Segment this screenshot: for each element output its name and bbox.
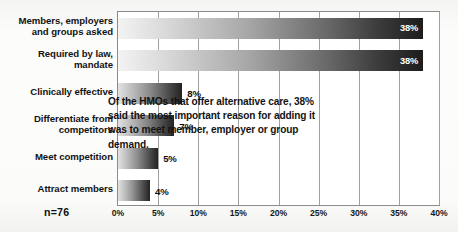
bar-value-label: 38% xyxy=(400,23,418,33)
bar-chart: Members, employersand groups askedRequir… xyxy=(0,0,458,232)
category-label-line: Meet competition xyxy=(0,152,113,163)
bar-value-label: 38% xyxy=(400,56,418,66)
value-axis-tick-label: 25% xyxy=(310,208,327,218)
chart-title xyxy=(10,0,450,3)
category-label-line: Attract members xyxy=(0,184,113,195)
category-label: Clinically effective xyxy=(0,87,113,98)
value-axis-tick-label: 5% xyxy=(152,208,164,218)
value-axis-tick-label: 15% xyxy=(230,208,247,218)
category-axis-labels: Members, employersand groups askedRequir… xyxy=(0,11,113,206)
bar-value-label: 4% xyxy=(155,185,169,196)
bar-row: 4% xyxy=(118,180,439,201)
gridline xyxy=(439,12,440,205)
value-axis-labels: 0%5%10%15%20%25%30%35%40% xyxy=(117,208,440,222)
category-label-line: competitors xyxy=(0,125,113,136)
bar xyxy=(118,50,423,71)
chart-annotation: Of the HMOs that offer alternative care,… xyxy=(108,95,320,152)
category-label: Differentiate fromcompetitors xyxy=(0,114,113,136)
value-axis-tick-label: 35% xyxy=(390,208,407,218)
gridline xyxy=(399,12,400,205)
value-axis-tick-label: 0% xyxy=(112,208,124,218)
sample-size-label: n=76 xyxy=(44,206,69,218)
bar xyxy=(118,180,150,201)
category-label: Required by law,mandate xyxy=(0,49,113,71)
category-label-line: mandate xyxy=(0,60,113,71)
category-label-line: Clinically effective xyxy=(0,87,113,98)
value-axis-tick-label: 20% xyxy=(270,208,287,218)
bar-row: 38% xyxy=(118,50,439,71)
category-label: Attract members xyxy=(0,184,113,195)
gridline xyxy=(359,12,360,205)
bar xyxy=(118,18,423,39)
value-axis-tick-label: 40% xyxy=(430,208,447,218)
category-label-line: and groups asked xyxy=(0,27,113,38)
category-label: Members, employersand groups asked xyxy=(0,16,113,38)
value-axis-tick-label: 30% xyxy=(350,208,367,218)
bar-value-label: 5% xyxy=(163,153,177,164)
category-label: Meet competition xyxy=(0,152,113,163)
value-axis-tick-label: 10% xyxy=(190,208,207,218)
bar-row: 38% xyxy=(118,18,439,39)
